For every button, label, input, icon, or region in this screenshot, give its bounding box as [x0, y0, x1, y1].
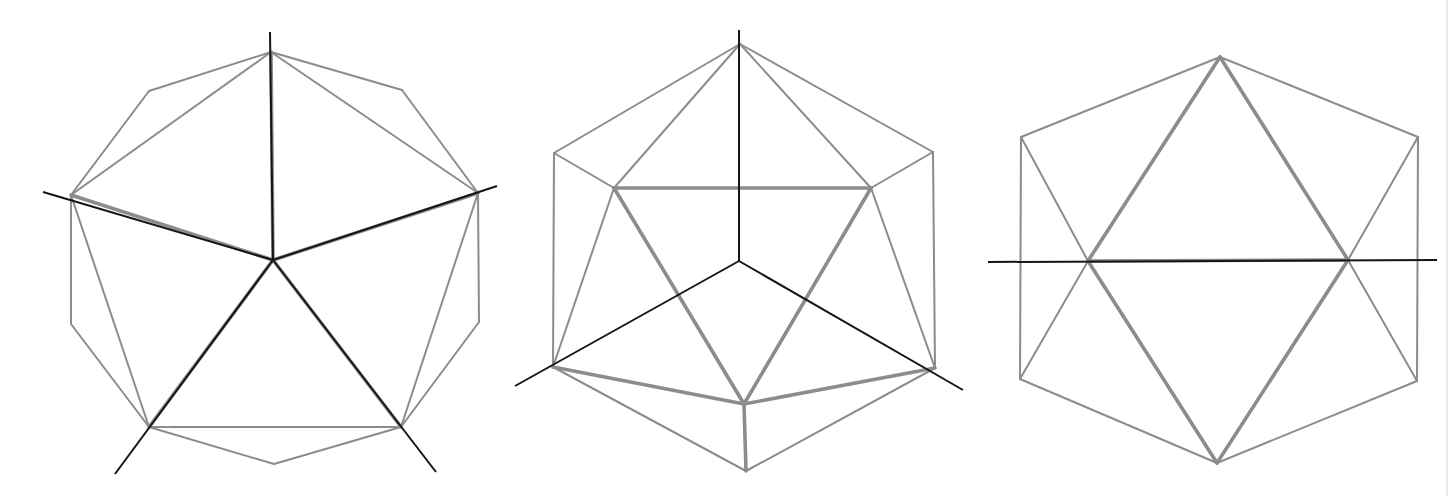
- front-edge-line: [744, 188, 871, 404]
- edge-line: [401, 193, 478, 427]
- edge-line: [554, 44, 740, 153]
- front-edge-line: [744, 404, 746, 471]
- edge-line: [271, 52, 402, 90]
- edge-line: [1020, 261, 1088, 379]
- edge-line: [1021, 57, 1220, 137]
- figure-threefold-view: [515, 30, 963, 471]
- front-edge-line: [553, 367, 744, 404]
- figure-fivefold-view: [43, 32, 497, 474]
- edge-line: [478, 193, 479, 322]
- edge-line: [871, 188, 935, 368]
- edge-line: [740, 44, 871, 188]
- edge-line: [71, 324, 149, 427]
- figure-twofold-view: [988, 57, 1437, 463]
- edge-line: [1217, 381, 1417, 463]
- edge-line: [871, 152, 933, 188]
- symmetry-axis-line: [273, 186, 497, 260]
- edge-line: [1020, 137, 1021, 379]
- edge-line: [933, 152, 935, 368]
- front-edge-line: [614, 188, 744, 404]
- edge-line: [554, 153, 614, 188]
- edge-line: [402, 90, 478, 193]
- symmetry-axis-line: [115, 260, 273, 474]
- front-edge-line: [1217, 260, 1348, 463]
- edge-line: [71, 195, 149, 427]
- edge-line: [71, 91, 149, 195]
- edge-line: [553, 188, 614, 367]
- edge-line: [553, 367, 746, 471]
- symmetry-axis-line: [43, 192, 273, 260]
- edge-line: [149, 52, 271, 91]
- edge-line: [740, 44, 933, 152]
- edge-line: [149, 427, 274, 464]
- front-edge-line: [1220, 57, 1348, 260]
- front-edge-line: [1088, 57, 1220, 261]
- edge-line: [1021, 137, 1088, 261]
- edge-line: [1348, 260, 1417, 381]
- edge-line: [274, 427, 401, 464]
- edge-line: [71, 52, 271, 195]
- edge-line: [1020, 379, 1217, 463]
- edge-line: [1417, 137, 1418, 381]
- icosahedron-projections-diagram: [0, 0, 1448, 496]
- symmetry-axis-line: [515, 261, 739, 386]
- edge-line: [553, 153, 554, 367]
- edge-line: [614, 44, 740, 188]
- symmetry-axis-line: [988, 260, 1437, 262]
- front-edge-line: [744, 368, 935, 404]
- edge-line: [271, 52, 478, 193]
- edge-line: [1220, 57, 1418, 137]
- edge-line: [1348, 137, 1418, 260]
- edge-line: [746, 368, 935, 471]
- symmetry-axis-line: [739, 261, 963, 390]
- front-edge-line: [1088, 261, 1217, 463]
- edge-line: [401, 322, 479, 427]
